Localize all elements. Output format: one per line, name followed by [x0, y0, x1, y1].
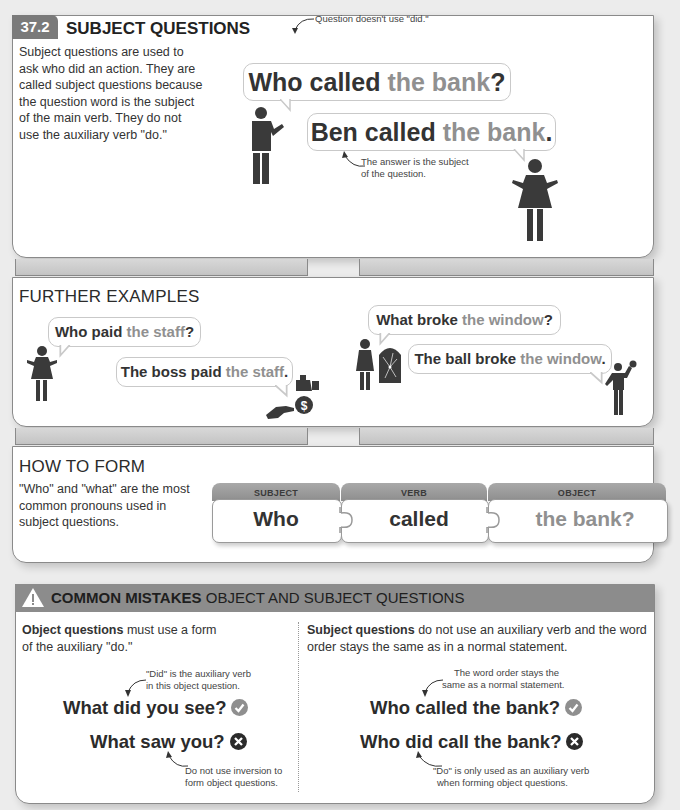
note-did-auxiliary: "Did" is the auxiliary verb in this obje…	[146, 668, 251, 692]
speech-bubble-question: Who paid the staff?	[48, 317, 201, 347]
note-answer-subject: The answer is the subject of the questio…	[361, 156, 469, 180]
object-questions-intro: Object questions must use a form of the …	[22, 622, 217, 655]
woman-figure-icon	[355, 339, 375, 391]
note-question-no-did: Question doesn't use "did."	[315, 13, 429, 25]
column-divider	[298, 622, 299, 792]
panel-connector	[359, 259, 654, 276]
example-wrong-subject: Who did call the bank?	[360, 731, 583, 753]
woman-figure-icon	[25, 346, 59, 402]
speech-bubble-answer: The ball broke the window.	[408, 344, 612, 374]
piece-word-subject: Who	[212, 507, 340, 531]
common-mistakes-subtitle: OBJECT AND SUBJECT QUESTIONS	[202, 589, 465, 606]
woman-figure-icon	[510, 158, 560, 242]
section-number-badge: 37.2	[12, 15, 58, 39]
warning-icon	[21, 587, 45, 608]
bubble-tail	[590, 372, 604, 386]
check-icon	[231, 699, 248, 716]
arrow-icon	[118, 676, 148, 698]
panel-connector	[15, 428, 308, 445]
arrow-icon	[286, 13, 316, 35]
panel-connector	[15, 259, 308, 276]
note-do-auxiliary: "Do" is only used as an auxiliary verb w…	[433, 765, 589, 789]
man-throwing-ball-icon	[605, 360, 639, 416]
note-word-order: The word order stays the same as a norma…	[442, 667, 565, 691]
puzzle-tab-icon	[483, 505, 503, 535]
how-to-form-text: "Who" and "what" are the most common pro…	[19, 481, 199, 531]
how-to-form-title: HOW TO FORM	[19, 457, 145, 477]
example-correct-object: What did you see?	[63, 697, 248, 719]
example-correct-subject: Who called the bank?	[370, 697, 582, 719]
cross-icon	[230, 733, 247, 750]
panel-connector	[359, 428, 654, 445]
puzzle-tab-icon	[336, 505, 356, 535]
speech-bubble-question: Who called the bank?	[243, 63, 511, 101]
common-mistakes-header: COMMON MISTAKES OBJECT AND SUBJECT QUEST…	[15, 584, 654, 612]
piece-word-object: the bank?	[496, 507, 674, 531]
section-title: SUBJECT QUESTIONS	[66, 19, 250, 39]
svg-text:$: $	[301, 399, 308, 413]
broken-window-icon	[379, 345, 401, 383]
arrow-icon	[415, 676, 445, 698]
speech-bubble-answer: Ben called the bank.	[307, 113, 556, 151]
bubble-tail	[58, 345, 72, 359]
section-intro: Subject questions are used to ask who di…	[19, 44, 204, 143]
common-mistakes-title: COMMON MISTAKES	[51, 589, 202, 606]
speech-bubble-question: What broke the window?	[368, 305, 561, 335]
cross-icon	[566, 733, 583, 750]
subject-questions-intro: Subject questions do not use an auxiliar…	[307, 622, 647, 655]
money-handover-icon: $	[264, 373, 324, 421]
check-icon	[565, 699, 582, 716]
man-figure-icon	[249, 106, 287, 186]
piece-word-verb: called	[346, 507, 492, 531]
further-examples-title: FURTHER EXAMPLES	[19, 287, 199, 307]
note-no-inversion: Do not use inversion to form object ques…	[185, 765, 282, 789]
